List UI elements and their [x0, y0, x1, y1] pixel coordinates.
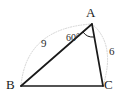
- side-length-label-ab: 9: [41, 38, 47, 49]
- angle-arc-marker-a: [83, 32, 94, 37]
- angle-measure-label-a: 60°: [66, 33, 80, 43]
- geometry-figure: A B C 9 6 60°: [0, 0, 126, 101]
- side-length-label-ac: 6: [109, 46, 115, 57]
- vertex-label-b: B: [6, 78, 15, 91]
- side-ab: [21, 24, 92, 86]
- side-ac: [92, 24, 103, 86]
- vertex-label-c: C: [104, 78, 113, 91]
- vertex-label-a: A: [86, 6, 95, 19]
